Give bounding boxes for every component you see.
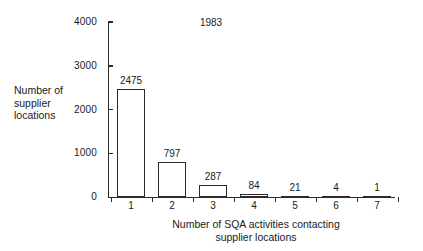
x-axis-title-line-2: supplier locations [131, 231, 381, 244]
x-axis-tick [316, 197, 317, 202]
y-axis-tick [108, 109, 113, 110]
y-axis-tick [108, 65, 113, 66]
bar-4 [240, 194, 268, 198]
bar-value-label-1: 2475 [106, 75, 156, 86]
bar-value-label-2: 797 [147, 148, 197, 159]
y-axis-tick-label: 3000 [74, 61, 97, 71]
x-axis-tick [152, 197, 153, 202]
x-axis-tick-label-4: 4 [239, 200, 269, 212]
bar-6 [322, 196, 350, 198]
x-axis-tick [193, 197, 194, 202]
x-axis-tick-label-3: 3 [198, 200, 228, 212]
y-axis-tick-label: 2000 [74, 105, 97, 115]
bar-1 [117, 89, 145, 197]
year-annotation: 1983 [186, 17, 236, 28]
bar-5 [281, 196, 309, 198]
x-axis-tick-label-1: 1 [116, 200, 146, 212]
x-axis-tick [111, 197, 112, 202]
x-axis-tick-label-7: 7 [362, 200, 392, 212]
bar-3 [199, 185, 227, 198]
bar-2 [158, 162, 186, 197]
y-axis-tick-label: 0 [91, 192, 97, 202]
x-axis-title: Number of SQA activities contacting supp… [131, 218, 381, 243]
y-axis-title: Number of supplier locations [14, 84, 100, 122]
y-axis-tick-label: 4000 [74, 17, 97, 27]
x-axis-tick [234, 197, 235, 202]
y-axis-tick [108, 153, 113, 154]
y-axis-tick [108, 21, 113, 22]
x-axis-tick [398, 197, 399, 202]
x-axis-title-line-1: Number of SQA activities contacting [131, 218, 381, 231]
x-axis-tick [275, 197, 276, 202]
x-axis-tick-label-6: 6 [321, 200, 351, 212]
x-axis-tick-label-2: 2 [157, 200, 187, 212]
bar-value-label-7: 1 [352, 182, 402, 193]
x-axis-tick [357, 197, 358, 202]
bar-7 [363, 196, 391, 198]
histogram-figure: Number of supplier locations 1983 010002… [0, 0, 423, 251]
x-axis-tick-label-5: 5 [280, 200, 310, 212]
y-axis-title-line-1: Number of [14, 84, 100, 97]
y-axis-tick-label: 1000 [74, 148, 97, 158]
